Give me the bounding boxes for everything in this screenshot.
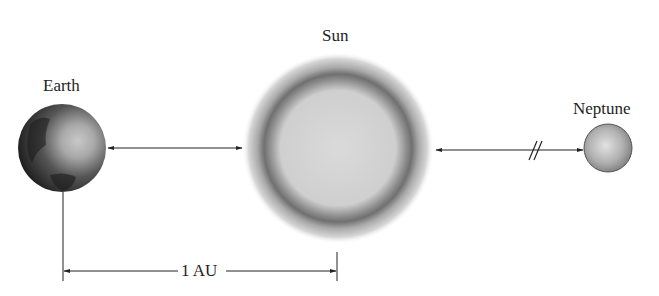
earth: [18, 104, 106, 192]
sun-disc-icon: [242, 52, 434, 244]
sun: [242, 52, 434, 244]
sun-label: Sun: [322, 27, 348, 44]
neptune: [584, 124, 632, 172]
neptune-label: Neptune: [573, 100, 631, 117]
sun-neptune-arrow: [436, 141, 583, 160]
neptune-globe-icon: [584, 124, 632, 172]
earth-label: Earth: [43, 77, 80, 94]
distance-label: 1 AU: [181, 262, 217, 279]
